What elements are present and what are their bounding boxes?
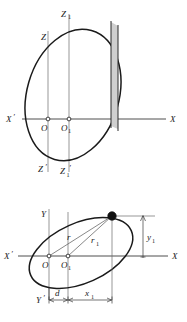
label-lower-origin-o1: O (61, 260, 68, 270)
label-upper-origin-o1: O (61, 123, 68, 133)
label-upper-x: X (169, 114, 176, 124)
label-lower-x: X (171, 251, 178, 261)
label-dimension-x1: x (84, 288, 89, 298)
label-upper-x-prime-mark: ′ (13, 113, 15, 122)
label-layer: Z Z 1 X ′ X O O 1 Z ′ Z 1 ′ Y X ′ X O O … (0, 0, 187, 322)
label-lower-origin-o: O (42, 260, 49, 270)
label-dimension-y1-sub: 1 (152, 237, 155, 244)
label-upper-z1: Z (61, 9, 67, 19)
label-lower-x-prime-mark: ′ (11, 250, 13, 259)
label-upper-z1-prime-letter: Z (60, 166, 66, 176)
label-lower-y: Y (41, 209, 47, 219)
label-upper-origin-o: O (41, 123, 48, 133)
label-upper-z: Z (41, 32, 47, 42)
label-lower-y-prime-letter: Y (36, 295, 42, 305)
label-radius-r1: r (91, 235, 95, 245)
label-upper-z1-sub: 1 (68, 13, 71, 20)
label-upper-x-prime-letter: X (5, 114, 12, 124)
label-lower-y-prime-mark: ′ (43, 294, 45, 303)
label-lower-x-prime-letter: X (3, 251, 10, 261)
label-radius-r1-sub: 1 (96, 240, 99, 247)
label-upper-z-prime-mark: ′ (45, 163, 47, 172)
label-dimension-d: d (55, 288, 60, 298)
technical-diagram-figure: Z Z 1 X ′ X O O 1 Z ′ Z 1 ′ Y X ′ X O O … (0, 0, 187, 322)
label-dimension-y1: y (146, 232, 151, 242)
label-upper-origin-o1-sub: 1 (68, 127, 71, 134)
label-upper-z-prime-letter: Z (38, 164, 44, 174)
label-lower-origin-o1-sub: 1 (68, 264, 71, 271)
label-radius-r: r (67, 232, 71, 242)
label-upper-z1-prime-mark: ′ (69, 164, 71, 173)
label-dimension-x1-sub: 1 (91, 293, 94, 300)
